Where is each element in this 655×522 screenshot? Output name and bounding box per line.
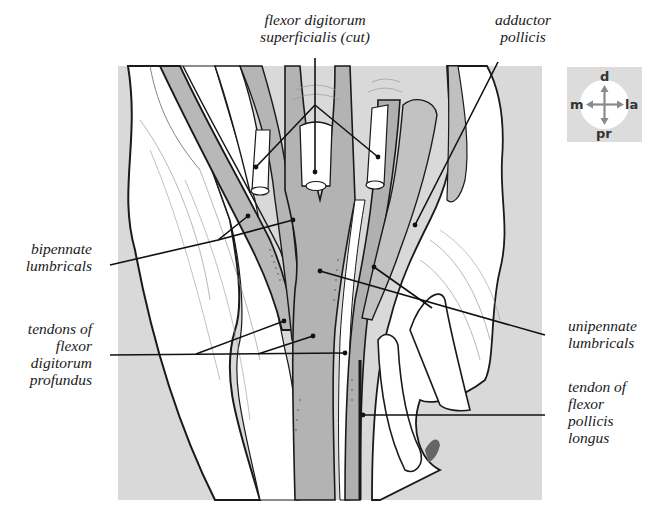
label-line: lumbricals [568, 334, 655, 351]
label-line: flexor [568, 395, 655, 412]
label-line: flexor digitorum [240, 11, 390, 28]
label-line: flexor [0, 337, 92, 354]
compass-proximal: pr [596, 127, 612, 140]
orientation-compass: d pr m la [567, 67, 642, 142]
label-line: pollicis [568, 412, 655, 429]
label-unipennate-lumbricals: unipennate lumbricals [568, 317, 655, 351]
label-line: tendon of [568, 378, 655, 395]
anatomical-illustration [0, 0, 655, 522]
label-flexor-digitorum-superficialis: flexor digitorum superficialis (cut) [240, 11, 390, 45]
label-line: digitorum [0, 354, 92, 371]
label-line: unipennate [568, 317, 655, 334]
label-line: adductor [478, 11, 568, 28]
label-tendons-flexor-digitorum-profundus: tendons of flexor digitorum profundus [0, 320, 92, 388]
compass-distal: d [600, 70, 609, 83]
label-tendon-flexor-pollicis-longus: tendon of flexor pollicis longus [568, 378, 655, 446]
label-adductor-pollicis: adductor pollicis [478, 11, 568, 45]
label-bipennate-lumbricals: bipennate lumbricals [0, 240, 92, 274]
compass-lateral: la [625, 98, 638, 111]
label-line: profundus [0, 371, 92, 388]
label-line: superficialis (cut) [240, 28, 390, 45]
compass-medial: m [570, 98, 584, 111]
label-line: lumbricals [0, 257, 92, 274]
label-line: longus [568, 429, 655, 446]
label-line: bipennate [0, 240, 92, 257]
label-line: pollicis [478, 28, 568, 45]
label-line: tendons of [0, 320, 92, 337]
